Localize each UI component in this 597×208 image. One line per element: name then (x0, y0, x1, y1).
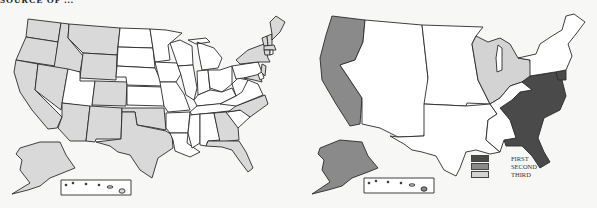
state-co (92, 81, 127, 106)
state-ri (270, 50, 273, 55)
state-sd (117, 47, 155, 68)
state-oh (208, 66, 232, 92)
state-az (58, 103, 90, 141)
right-us-regions-map (300, 0, 597, 208)
state-ks (127, 86, 164, 106)
state-ct (264, 50, 270, 55)
state-ma (264, 45, 276, 50)
legend-item-first: FIRST (471, 154, 537, 162)
legend-item-second: SECOND (471, 162, 537, 170)
state-fl (206, 141, 253, 172)
legend-swatch-third (471, 171, 489, 178)
left-us-map (0, 0, 300, 208)
state-nd (118, 28, 153, 48)
state-nm (86, 106, 122, 142)
state-nh (267, 34, 272, 46)
legend-swatch-second (471, 163, 489, 170)
legend-swatch-first (471, 155, 489, 162)
state-ar (166, 112, 190, 133)
legend-item-third: THIRD (471, 170, 537, 178)
legend: FIRST SECOND THIRD (471, 154, 537, 178)
state-ms (188, 114, 200, 148)
state-me (270, 16, 285, 40)
state-wy (80, 53, 117, 80)
state-ia (155, 62, 181, 82)
state-wi (170, 40, 193, 66)
